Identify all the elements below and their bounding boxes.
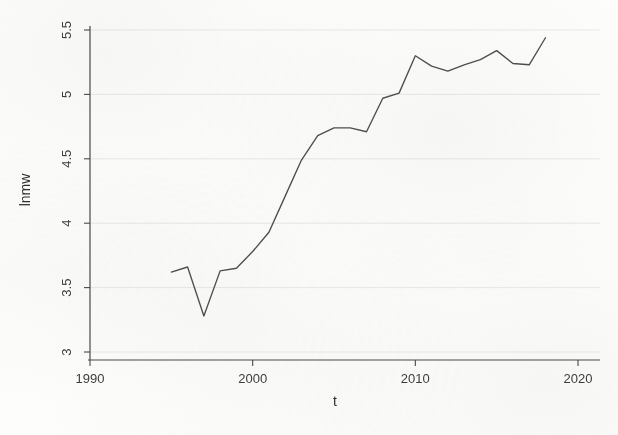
x-tick-label: 2020: [564, 371, 593, 386]
y-tick-label: 5: [59, 91, 74, 98]
x-tick-label: 1990: [76, 371, 105, 386]
y-tick-label: 4: [59, 220, 74, 227]
line-chart-canvas: 33.544.555.5 1990200020102020 t lnmw: [0, 0, 618, 435]
x-tick-label: 2010: [401, 371, 430, 386]
x-axis-ticks-group: 1990200020102020: [76, 360, 593, 386]
y-tick-label: 3.5: [59, 279, 74, 297]
y-tick-label: 5.5: [59, 21, 74, 39]
data-series-lnmw: [171, 38, 545, 316]
gridlines-group: [90, 30, 600, 352]
y-tick-label: 3: [59, 348, 74, 355]
y-axis-title: lnmw: [17, 173, 33, 207]
y-tick-label: 4.5: [59, 150, 74, 168]
x-tick-label: 2000: [238, 371, 267, 386]
x-axis-title: t: [333, 393, 337, 409]
y-axis-ticks-group: 33.544.555.5: [59, 21, 90, 356]
chart-figure: 33.544.555.5 1990200020102020 t lnmw: [0, 0, 618, 435]
